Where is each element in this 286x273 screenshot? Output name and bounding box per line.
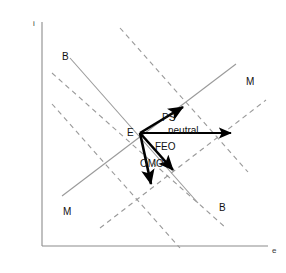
curve-b-dashed-lower — [52, 104, 180, 248]
solid-curves — [62, 58, 236, 203]
vector-label-neutral: neutral — [168, 126, 199, 136]
vector-label-feo: FEO — [155, 142, 176, 152]
policy-vectors — [140, 107, 231, 184]
y-axis-label: i — [33, 20, 35, 28]
diagram-canvas — [0, 0, 286, 273]
curve-label-m-lower-left: M — [63, 207, 71, 217]
equilibrium-point-label: E — [127, 128, 134, 138]
curve-label-b-lower-right: B — [219, 203, 226, 213]
vector-label-omo: OMO — [140, 159, 164, 169]
x-axis-label: e — [272, 247, 276, 255]
curve-label-m-upper-right: M — [246, 77, 254, 87]
vector-label-ps: PS — [162, 113, 175, 123]
curve-b-dashed-upper — [120, 28, 248, 172]
curve-label-b-upper-left: B — [62, 52, 69, 62]
dashed-curves — [52, 28, 266, 248]
policy-diagram: i e B B M M E PS neutral FEO OMO — [0, 0, 286, 273]
